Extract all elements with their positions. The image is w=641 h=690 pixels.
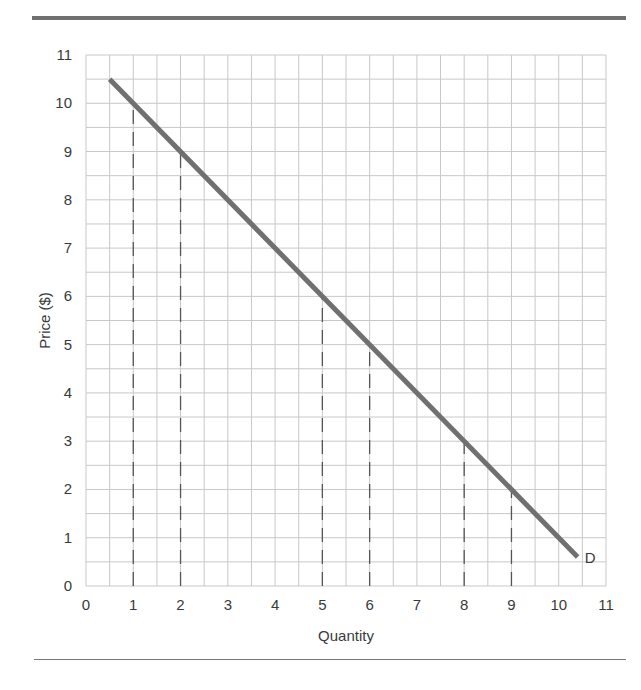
- x-axis-label: Quantity: [318, 627, 374, 644]
- x-tick-label: 3: [224, 596, 232, 613]
- y-tick-label: 9: [64, 143, 72, 160]
- y-tick-label: 11: [56, 46, 72, 63]
- y-tick-label: 4: [64, 384, 72, 401]
- y-tick-label: 1: [64, 529, 72, 546]
- x-tick-label: 4: [271, 596, 279, 613]
- demand-curve-label: D: [585, 549, 596, 566]
- x-tick-label: 10: [550, 596, 567, 613]
- y-tick-label: 8: [64, 191, 72, 208]
- x-tick-label: 8: [460, 596, 468, 613]
- demand-chart: 0123456789101101234567891011DQuantityPri…: [0, 0, 641, 690]
- y-tick-label: 2: [64, 480, 72, 497]
- x-tick-label: 1: [129, 596, 137, 613]
- y-tick-label: 7: [64, 239, 72, 256]
- x-tick-label: 0: [82, 596, 90, 613]
- y-tick-label: 6: [64, 287, 72, 304]
- x-tick-label: 2: [176, 596, 184, 613]
- x-tick-label: 11: [598, 596, 614, 613]
- y-tick-label: 3: [64, 432, 72, 449]
- x-tick-label: 9: [507, 596, 515, 613]
- y-tick-label: 0: [64, 577, 72, 594]
- x-tick-label: 6: [365, 596, 373, 613]
- demand-curve: [110, 79, 578, 557]
- bottom-rule: [34, 659, 626, 660]
- y-tick-label: 5: [64, 336, 72, 353]
- x-tick-label: 7: [413, 596, 421, 613]
- x-tick-label: 5: [318, 596, 326, 613]
- y-tick-label: 10: [55, 94, 72, 111]
- y-axis-label: Price ($): [36, 292, 53, 349]
